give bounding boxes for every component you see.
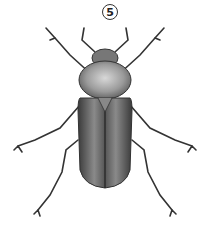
beetle-illustration-icon — [0, 0, 210, 228]
